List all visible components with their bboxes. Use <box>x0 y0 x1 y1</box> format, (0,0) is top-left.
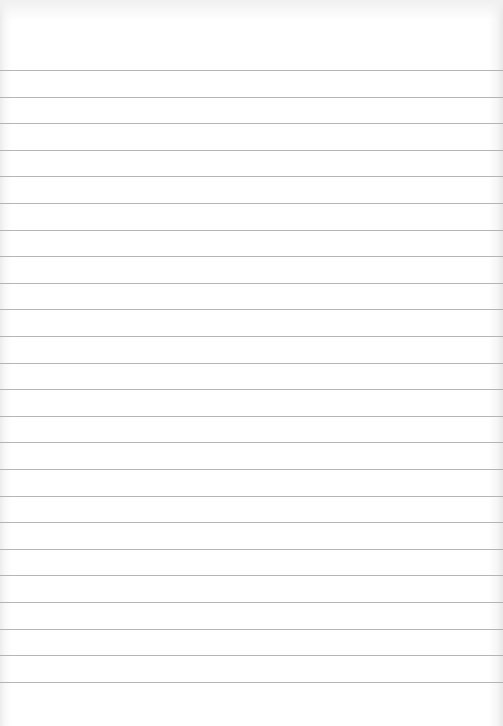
ruled-line <box>0 363 503 364</box>
ruled-line <box>0 123 503 124</box>
ruled-line <box>0 522 503 523</box>
ruled-line <box>0 602 503 603</box>
lined-paper-sheet <box>0 0 503 726</box>
ruled-line <box>0 203 503 204</box>
ruled-line <box>0 309 503 310</box>
ruled-line <box>0 256 503 257</box>
ruled-line <box>0 496 503 497</box>
ruled-line <box>0 442 503 443</box>
ruled-line <box>0 682 503 683</box>
ruled-line <box>0 655 503 656</box>
ruled-line <box>0 150 503 151</box>
ruled-lines <box>0 0 503 726</box>
ruled-line <box>0 97 503 98</box>
ruled-line <box>0 176 503 177</box>
ruled-line <box>0 575 503 576</box>
ruled-line <box>0 469 503 470</box>
ruled-line <box>0 389 503 390</box>
ruled-line <box>0 629 503 630</box>
ruled-line <box>0 70 503 71</box>
ruled-line <box>0 283 503 284</box>
ruled-line <box>0 549 503 550</box>
ruled-line <box>0 230 503 231</box>
ruled-line <box>0 416 503 417</box>
ruled-line <box>0 336 503 337</box>
